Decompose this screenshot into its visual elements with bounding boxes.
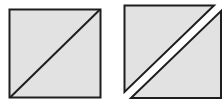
whole-square-with-diagonal: [10, 10, 101, 98]
square-split-into-two-triangles: [125, 6, 222, 99]
diagram-canvas: [0, 0, 224, 104]
